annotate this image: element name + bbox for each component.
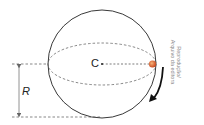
credit-line-2: Arquivo da editora [170, 40, 176, 85]
center-label: C [91, 57, 99, 69]
credit-line-1: Reprodução/ [176, 40, 182, 85]
image-credit: Reprodução/ Arquivo da editora [170, 40, 182, 85]
radius-label: R [22, 85, 30, 97]
particle [149, 60, 156, 67]
center-point [101, 63, 103, 65]
